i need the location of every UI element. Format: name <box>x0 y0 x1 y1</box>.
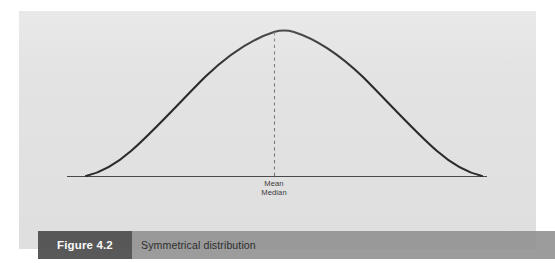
figure-title-label: Symmetrical distribution <box>141 239 256 251</box>
figure-title-wrap: Symmetrical distribution <box>132 231 555 259</box>
distribution-curve <box>86 31 482 177</box>
mean-median-label-group: Mean Median <box>214 179 334 198</box>
figure-number-block: Figure 4.2 <box>38 231 132 259</box>
figure-panel: Mean Median Figure 4.2 Symmetrical distr… <box>19 11 536 249</box>
figure-number-label: Figure 4.2 <box>57 239 113 251</box>
plot-area: Mean Median <box>19 11 536 211</box>
figure-caption-bar: Figure 4.2 Symmetrical distribution <box>38 231 555 259</box>
median-label: Median <box>214 188 334 197</box>
mean-label: Mean <box>214 179 334 188</box>
